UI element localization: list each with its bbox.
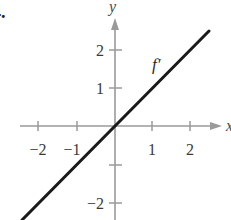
x-tick-label: 2: [186, 141, 194, 158]
x-axis-label: x: [225, 117, 231, 134]
x-axis-arrow-icon: [210, 122, 222, 130]
graph-canvas: 4. x y −2 −1 1 2 2 1 −2 f′: [0, 0, 231, 220]
y-tick-label: 2: [96, 42, 104, 59]
y-axis-arrow-icon: [111, 18, 119, 30]
curve-label: f′: [152, 55, 161, 74]
x-tick-labels: −2 −1 1 2: [29, 141, 194, 158]
problem-number: 4.: [0, 2, 6, 22]
y-axis: y: [107, 0, 119, 220]
y-tick-labels: 2 1 −2: [87, 42, 104, 212]
y-axis-label: y: [107, 0, 117, 16]
y-tick-label: −2: [87, 195, 104, 212]
x-axis: x: [20, 117, 231, 134]
x-tick-label: 1: [148, 141, 156, 158]
y-tick-label: 1: [96, 80, 104, 97]
x-tick-label: −1: [63, 141, 80, 158]
x-tick-label: −2: [29, 141, 46, 158]
